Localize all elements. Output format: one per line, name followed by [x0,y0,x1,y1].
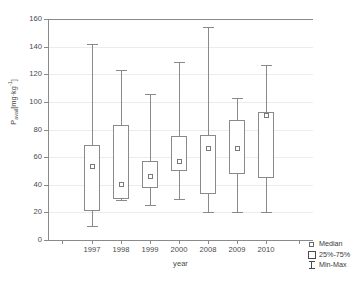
whisker-upper [266,65,267,112]
x-tick-mark [266,240,267,244]
whisker-cap-max [116,70,127,71]
y-tick-label: 20 [0,208,42,216]
whisker-cap-min [261,212,272,213]
y-axis-line [48,19,49,240]
y-tick-label: 140 [0,43,42,51]
min-max-whisker-glyph [308,261,316,269]
median-marker [177,159,182,164]
y-tick-label: 160 [0,15,42,23]
x-tick-label: 2010 [246,245,286,254]
min-max-whisker-icon [306,261,317,269]
x-tick-mark-minor [299,240,300,244]
quartile-box [200,135,216,194]
plot-top-border [48,19,313,20]
median-marker [235,146,240,151]
whisker-lower [179,171,180,199]
whisker-cap-max [87,44,98,45]
legend-label: Min-Max [319,260,347,271]
x-tick-mark [92,240,93,244]
gridline [48,102,313,103]
quartile-box [113,125,129,198]
median-marker [264,113,269,118]
x-axis-line [48,240,313,241]
box-plot-figure: 020406080100120140160 Pavail[mg·kg-1] 19… [0,0,361,281]
whisker-cap-max [174,62,185,63]
whisker-cap-max [261,65,272,66]
x-tick-mark [121,240,122,244]
median-marker [90,164,95,169]
whisker-lower [92,211,93,226]
x-axis-title: year [48,259,313,268]
whisker-lower [237,174,238,213]
y-tick-label: 60 [0,153,42,161]
gridline [48,47,313,48]
whisker-cap-min [87,226,98,227]
gridline [48,74,313,75]
whisker-lower [208,194,209,212]
whisker-cap-max [145,94,156,95]
whisker-lower [266,178,267,213]
median-marker [148,174,153,179]
quartile-box-glyph [308,251,316,259]
legend-item: Min-Max [306,260,350,271]
whisker-cap-max [232,98,243,99]
median-square-glyph [309,242,315,248]
legend-label: Median [319,239,343,250]
whisker-cap-min [116,200,127,201]
whisker-cap-min [203,212,214,213]
whisker-cap-min [232,212,243,213]
legend: Median25%-75%Min-Max [306,239,350,271]
legend-item: Median [306,239,350,250]
x-tick-mark [179,240,180,244]
x-tick-mark [237,240,238,244]
whisker-lower [150,188,151,206]
legend-item: 25%-75% [306,250,350,261]
median-marker [206,146,211,151]
y-axis-tick-labels: 020406080100120140160 [0,0,42,281]
whisker-upper [208,27,209,135]
x-tick-mark-minor [62,240,63,244]
whisker-cap-min [145,205,156,206]
median-square-icon [306,242,317,248]
whisker-upper [92,44,93,145]
whisker-cap-max [203,27,214,28]
quartile-box [171,136,187,171]
y-tick-label: 0 [0,236,42,244]
y-axis-title: Pavail[mg·kg-1] [7,67,19,137]
gridline [48,212,313,213]
x-tick-mark [208,240,209,244]
whisker-cap-min [174,199,185,200]
legend-label: 25%-75% [319,250,350,261]
whisker-upper [237,98,238,120]
quartile-box-icon [306,251,317,259]
whisker-upper [150,94,151,162]
y-tick-label: 40 [0,181,42,189]
x-tick-mark [150,240,151,244]
whisker-upper [179,62,180,137]
median-marker [119,182,124,187]
quartile-box [84,145,100,211]
whisker-upper [121,70,122,125]
quartile-box [258,112,274,178]
